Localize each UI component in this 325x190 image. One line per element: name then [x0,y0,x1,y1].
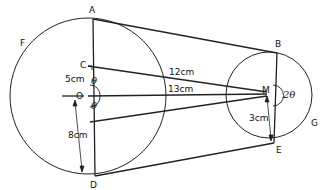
label-F: F [20,38,25,48]
line-BE [274,53,277,143]
two-theta-arc [273,85,284,106]
label-M: M [262,85,270,95]
arrow-down-3cm [269,135,273,141]
angle-theta-upper: θ [91,75,97,86]
length-OD: 8cm [68,130,87,140]
label-O: O [76,91,83,101]
length-OM: 13cm [168,84,193,94]
label-C: C [80,60,86,70]
tangent-DE [95,143,274,176]
length-ME: 3cm [249,113,268,123]
line-OM [88,94,267,96]
angle-two-theta: 2θ [282,89,295,100]
length-CM: 12cm [169,67,194,77]
arrow-down-8cm [80,166,84,172]
label-G: G [311,118,318,128]
diagram-canvas: A B C D E F G O M 5cm 12cm 13cm 8cm 3cm … [0,0,325,190]
line-lower-M [90,96,267,122]
tangent-AB [93,19,277,53]
belt-pulley-diagram: A B C D E F G O M 5cm 12cm 13cm 8cm 3cm … [0,0,325,190]
label-B: B [275,39,281,49]
angle-theta-lower: θ [91,100,97,111]
length-OC: 5cm [65,74,84,84]
label-D: D [90,180,97,190]
label-E: E [276,145,282,155]
arrow-up-3cm [265,96,269,102]
line-AD [93,19,95,176]
label-A: A [89,5,96,15]
